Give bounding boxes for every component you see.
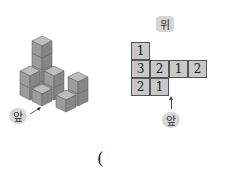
grid-cell: 2 (150, 60, 169, 78)
top-label: 위 (156, 16, 174, 32)
answer-paren: ( (97, 148, 104, 168)
front-label-right: 앞 (162, 112, 180, 128)
up-arrow-icon (171, 99, 172, 109)
grid-cell: 2 (188, 60, 207, 78)
front-label-left: 앞 (9, 108, 27, 124)
front-label-right-text: 앞 (166, 112, 176, 128)
grid-cell: 3 (131, 60, 150, 78)
front-label-left-text: 앞 (13, 108, 23, 124)
grid-cell: 2 (131, 78, 150, 96)
top-label-text: 위 (160, 16, 170, 32)
grid-cell: 1 (131, 42, 150, 60)
grid-cell: 1 (150, 78, 169, 96)
grid-cell: 1 (169, 60, 188, 78)
